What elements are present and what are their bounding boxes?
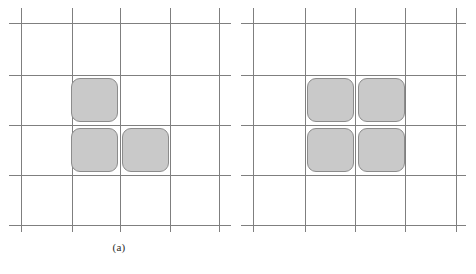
gridline-vertical-4 (170, 8, 171, 232)
gridline-horizontal-5 (9, 225, 231, 226)
gridline-vertical-4 (405, 8, 406, 232)
gridline-vertical-3 (355, 8, 356, 232)
square-b-1 (307, 78, 354, 122)
panel-b: (b) (238, 0, 476, 274)
gridline-horizontal-4 (9, 175, 231, 176)
gridline-vertical-5 (219, 8, 220, 232)
gridline-vertical-2 (305, 8, 306, 232)
gridline-vertical-3 (120, 8, 121, 232)
gridline-horizontal-1 (241, 23, 466, 24)
gridline-horizontal-2 (241, 75, 466, 76)
gridline-vertical-2 (72, 8, 73, 232)
square-b-3 (307, 128, 354, 172)
square-a-3 (122, 128, 169, 172)
square-a-1 (71, 78, 118, 122)
grid-a (0, 0, 238, 238)
gridline-vertical-1 (253, 8, 254, 232)
gridline-vertical-1 (21, 8, 22, 232)
gridline-horizontal-3 (241, 125, 466, 126)
grid-b (238, 0, 476, 238)
gridline-horizontal-3 (9, 125, 231, 126)
panel-a-caption-text: (a) (113, 241, 126, 253)
gridline-horizontal-5 (241, 225, 466, 226)
square-b-4 (358, 128, 405, 172)
panel-a: (a) (0, 0, 238, 274)
gridline-horizontal-1 (9, 23, 231, 24)
figure-container: (a) (b) (0, 0, 476, 274)
square-a-2 (71, 128, 118, 172)
gridline-vertical-5 (456, 8, 457, 232)
panel-a-caption: (a) (0, 241, 238, 253)
gridline-horizontal-2 (9, 75, 231, 76)
square-b-2 (358, 78, 405, 122)
gridline-horizontal-4 (241, 175, 466, 176)
